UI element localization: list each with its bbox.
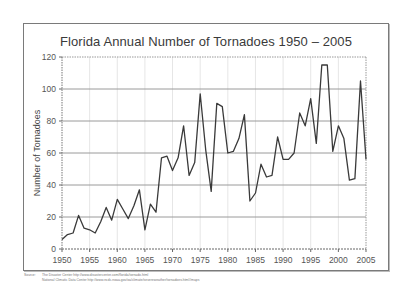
source-label: Source: (24, 273, 42, 278)
y-tick-label: 120 (42, 52, 56, 62)
y-tick-label: 0 (51, 244, 56, 254)
x-tick-label: 1965 (135, 255, 154, 265)
x-tick-label: 1970 (163, 255, 182, 265)
x-tick-label: 1950 (53, 255, 72, 265)
y-tick-label: 40 (47, 180, 57, 190)
x-tick-label: 1975 (191, 255, 210, 265)
x-tick-label: 1995 (301, 255, 320, 265)
source-line-2: National Climatic Data Center http://www… (24, 278, 199, 283)
y-tick-label: 100 (42, 84, 56, 94)
y-tick-label: 20 (47, 212, 57, 222)
plot-area: 0204060801001201950195519601965197019751… (0, 0, 411, 294)
x-tick-label: 1990 (274, 255, 293, 265)
x-tick-label: 1985 (246, 255, 265, 265)
x-tick-label: 1960 (108, 255, 127, 265)
source-line-1: The Disaster Center http://www.disasterc… (42, 273, 148, 277)
x-tick-label: 1980 (218, 255, 237, 265)
x-tick-label: 2005 (357, 255, 376, 265)
source-note: Source:The Disaster Center http://www.di… (24, 273, 199, 283)
tick-labels: 0204060801001201950195519601965197019751… (42, 52, 376, 265)
y-tick-label: 80 (47, 116, 57, 126)
x-tick-label: 2000 (329, 255, 348, 265)
x-tick-label: 1955 (80, 255, 99, 265)
y-tick-label: 60 (47, 148, 57, 158)
data-line (62, 65, 366, 239)
